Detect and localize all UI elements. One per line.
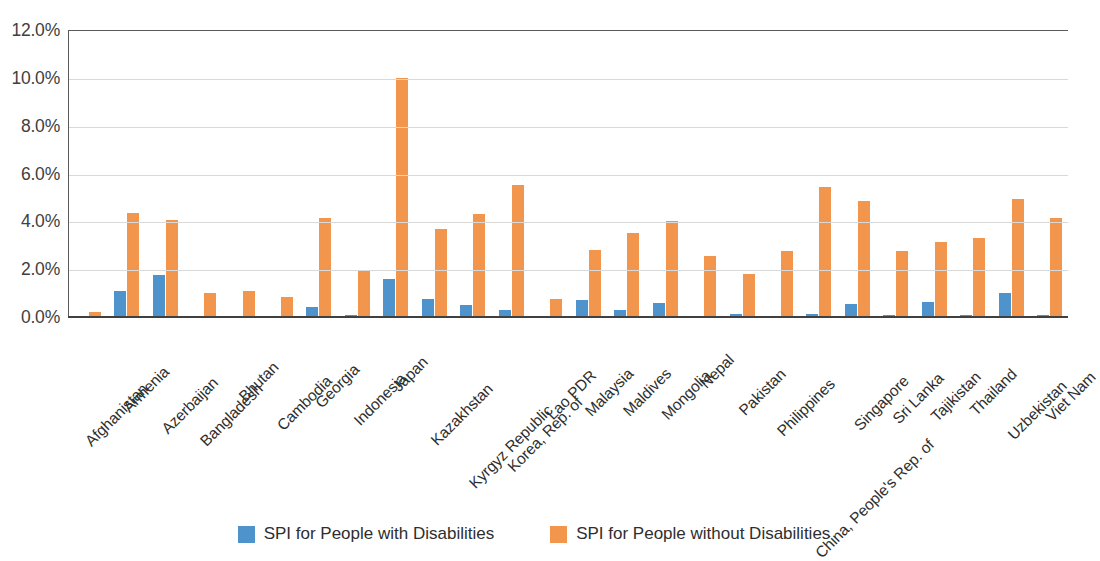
bar <box>550 299 562 317</box>
legend-color-swatch <box>238 526 255 543</box>
gridline <box>69 222 1068 223</box>
y-axis-tick-label: 2.0% <box>21 259 60 280</box>
legend-label: SPI for People without Disabilities <box>576 524 830 544</box>
bar <box>819 187 831 317</box>
bar <box>896 251 908 317</box>
bar <box>743 274 755 317</box>
y-axis-tick-label: 8.0% <box>21 115 60 136</box>
bar <box>435 229 447 317</box>
y-axis-tick-label: 10.0% <box>11 67 60 88</box>
bar <box>166 220 178 317</box>
bar <box>383 279 395 317</box>
bar <box>204 293 216 317</box>
gridline <box>69 127 1068 128</box>
legend-item[interactable]: SPI for People with Disabilities <box>238 524 495 544</box>
legend-item[interactable]: SPI for People without Disabilities <box>550 524 830 544</box>
bar <box>281 297 293 317</box>
bar <box>999 293 1011 317</box>
bar <box>922 302 934 317</box>
y-axis: 0.0%2.0%4.0%6.0%8.0%10.0%12.0% <box>0 0 66 330</box>
gridline <box>69 79 1068 80</box>
x-axis-tick-label: Nepal <box>697 351 738 392</box>
bar <box>114 291 126 317</box>
x-axis-tick-label: Pakistan <box>735 365 789 419</box>
gridline <box>69 270 1068 271</box>
x-axis-labels: AfghanistanArmeniaAzerbaijanBangladeshBh… <box>0 317 1068 497</box>
bar <box>973 238 985 317</box>
y-axis-tick-label: 12.0% <box>11 20 60 41</box>
bar <box>422 299 434 317</box>
x-axis-tick-label: Philippines <box>774 375 839 440</box>
y-axis-tick-label: 6.0% <box>21 163 60 184</box>
bar <box>396 78 408 317</box>
bar <box>1012 199 1024 317</box>
chart-legend: SPI for People with DisabilitiesSPI for … <box>0 524 1068 544</box>
gridline <box>69 175 1068 176</box>
bar <box>589 250 601 317</box>
bar <box>512 185 524 317</box>
bar <box>781 251 793 317</box>
bar <box>704 256 716 317</box>
bar <box>473 214 485 317</box>
x-axis-tick-label: Kazakhstan <box>427 380 496 449</box>
bar <box>627 233 639 317</box>
bar <box>127 213 139 317</box>
bar <box>858 201 870 317</box>
bar <box>153 275 165 317</box>
bar <box>243 291 255 317</box>
bar <box>319 218 331 317</box>
bar <box>358 270 370 317</box>
legend-label: SPI for People with Disabilities <box>264 524 495 544</box>
bar <box>653 303 665 317</box>
plot-area <box>68 30 1068 317</box>
bar <box>576 300 588 317</box>
bar <box>935 242 947 317</box>
bar <box>1050 218 1062 317</box>
legend-color-swatch <box>550 526 567 543</box>
y-axis-tick-label: 4.0% <box>21 211 60 232</box>
